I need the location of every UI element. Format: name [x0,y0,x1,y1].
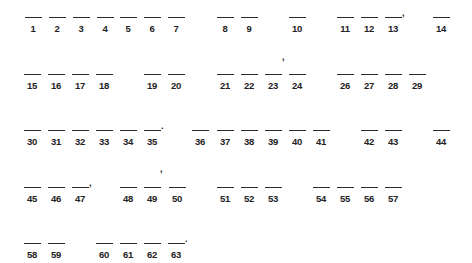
blank-underline[interactable] [385,17,402,18]
floating-comma-mark: , [282,52,285,62]
blank-underline[interactable] [385,74,402,75]
blank-underline[interactable] [241,17,258,18]
blank-underline[interactable] [313,187,330,188]
blank-underline[interactable] [49,17,66,18]
blank-underline[interactable] [289,130,306,131]
blank-underline[interactable] [313,130,330,131]
punctuation-mark: . [161,121,164,131]
punctuation-mark: , [402,8,405,18]
blank-44[interactable]: 44 [425,130,457,154]
blank-underline[interactable] [361,74,378,75]
blank-35[interactable]: 35. [136,130,168,154]
blank-63[interactable]: 63. [160,243,192,263]
blank-underline[interactable] [96,74,113,75]
blank-underline[interactable] [265,130,282,131]
blank-number-label: 44 [425,136,457,147]
blank-underline[interactable] [217,17,234,18]
blank-underline[interactable] [144,74,161,75]
blank-underline[interactable] [72,130,89,131]
blank-13[interactable]: 13, [377,17,409,41]
blank-underline[interactable] [192,130,209,131]
punctuation-mark: , [89,178,92,188]
blank-underline[interactable] [361,187,378,188]
blank-20[interactable]: 20 [160,74,192,98]
blank-53[interactable]: 53 [257,187,289,211]
blank-underline[interactable] [144,243,161,244]
blank-underline[interactable] [241,130,258,131]
blank-underline[interactable] [96,130,113,131]
blank-underline[interactable] [168,243,185,244]
blank-number-label: 13 [377,23,409,34]
blank-number-label: 10 [281,23,313,34]
blank-14[interactable]: 14 [425,17,457,41]
blank-underline[interactable] [217,130,234,131]
blank-underline[interactable] [385,130,402,131]
blank-underline[interactable] [48,187,65,188]
blank-underline[interactable] [144,17,161,18]
blank-underline[interactable] [409,74,426,75]
answer-blanks-sheet: 12345678910111213,1415161718192021222324… [0,0,472,263]
blank-number-label: 14 [425,23,457,34]
blank-number-label: 53 [257,193,289,204]
blank-underline[interactable] [337,17,354,18]
blank-underline[interactable] [361,130,378,131]
blank-underline[interactable] [217,187,234,188]
blank-number-label: 50 [161,193,193,204]
blank-9[interactable]: 9 [233,17,265,41]
blank-underline[interactable] [24,74,41,75]
blank-number-label: 41 [305,136,337,147]
blank-underline[interactable] [24,130,41,131]
blank-number-label: 35 [136,136,168,147]
blank-underline[interactable] [289,74,306,75]
blank-29[interactable]: 29 [401,74,433,98]
blank-underline[interactable] [337,74,354,75]
blank-underline[interactable] [120,130,137,131]
blank-57[interactable]: 57 [377,187,409,211]
blank-24[interactable]: 24 [281,74,313,98]
floating-comma-mark: , [160,164,163,174]
blank-10[interactable]: 10 [281,17,313,41]
blank-number-label: 20 [160,80,192,91]
blank-underline[interactable] [25,17,42,18]
blank-underline[interactable] [48,74,65,75]
blank-underline[interactable] [120,187,137,188]
blank-underline[interactable] [433,130,450,131]
blank-underline[interactable] [433,17,450,18]
blank-43[interactable]: 43 [377,130,409,154]
blank-underline[interactable] [337,187,354,188]
blank-underline[interactable] [241,187,258,188]
blank-underline[interactable] [48,130,65,131]
blank-underline[interactable] [289,17,306,18]
blank-underline[interactable] [48,243,65,244]
blank-underline[interactable] [265,74,282,75]
blank-underline[interactable] [120,243,137,244]
blank-underline[interactable] [265,187,282,188]
blank-41[interactable]: 41 [305,130,337,154]
blank-underline[interactable] [144,187,161,188]
blank-59[interactable]: 59 [40,243,72,263]
blank-underline[interactable] [72,74,89,75]
blank-underline[interactable] [24,187,41,188]
blank-underline[interactable] [385,187,402,188]
blank-18[interactable]: 18 [88,74,120,98]
blank-number-label: 9 [233,23,265,34]
blank-underline[interactable] [169,187,186,188]
blank-underline[interactable] [73,17,90,18]
blank-underline[interactable] [144,130,161,131]
blank-47[interactable]: 47, [64,187,96,211]
blank-underline[interactable] [217,74,234,75]
blank-number-label: 24 [281,80,313,91]
blank-underline[interactable] [96,243,113,244]
blank-number-label: 59 [40,249,72,260]
blank-number-label: 63 [160,249,192,260]
blank-underline[interactable] [168,17,185,18]
blank-underline[interactable] [120,17,137,18]
blank-underline[interactable] [241,74,258,75]
blank-number-label: 47 [64,193,96,204]
blank-7[interactable]: 7 [160,17,192,41]
blank-underline[interactable] [24,243,41,244]
blank-50[interactable]: 50 [161,187,193,211]
blank-underline[interactable] [361,17,378,18]
blank-underline[interactable] [168,74,185,75]
blank-underline[interactable] [72,187,89,188]
